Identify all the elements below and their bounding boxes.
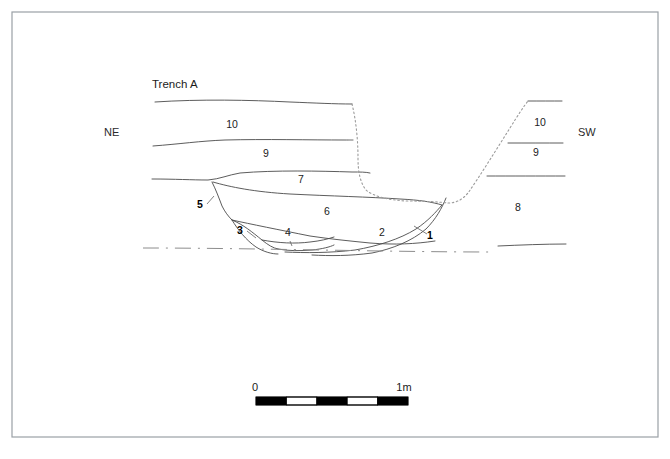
layer-9-7-boundary bbox=[152, 171, 370, 180]
context-label-3: 3 bbox=[237, 224, 243, 236]
compass-label-sw: SW bbox=[578, 126, 596, 138]
figure-frame-border bbox=[12, 12, 658, 437]
section-drawing-canvas: Trench A NE SW 10975634211098 0 1m bbox=[0, 0, 670, 459]
scale-bar-segments bbox=[256, 397, 408, 405]
leader-4 bbox=[290, 241, 292, 246]
trench-title-label: Trench A bbox=[152, 78, 198, 90]
context-label-4: 4 bbox=[285, 226, 291, 238]
compass-label-ne: NE bbox=[104, 126, 119, 138]
cut-edge-dotted-lines bbox=[352, 101, 528, 203]
context-label-6: 6 bbox=[324, 205, 330, 217]
ground-surface-left bbox=[155, 100, 352, 104]
context-label-5: 5 bbox=[197, 198, 203, 210]
scale-bar-end-label: 1m bbox=[396, 381, 411, 393]
natural-base-dashdot-line bbox=[143, 248, 492, 252]
scale-bar-segment-3 bbox=[317, 397, 347, 405]
context-label-7: 7 bbox=[298, 173, 304, 185]
cut-left-vertical bbox=[352, 104, 448, 203]
scale-bar-segment-4 bbox=[347, 397, 377, 405]
scale-bar-segment-2 bbox=[286, 397, 316, 405]
context-label-9: 9 bbox=[263, 147, 269, 159]
cut-5-edge bbox=[212, 182, 232, 220]
scale-bar-start-label: 0 bbox=[252, 381, 258, 393]
context-label-2: 2 bbox=[379, 226, 385, 238]
scale-bar-segment-5 bbox=[378, 397, 408, 405]
context-label-10: 10 bbox=[534, 116, 546, 128]
context-label-1: 1 bbox=[427, 229, 433, 241]
context-number-labels: 10975634211098 bbox=[197, 116, 546, 241]
context-label-8: 8 bbox=[515, 201, 521, 213]
right-bank-layer-lines bbox=[487, 101, 566, 246]
label-leader-lines bbox=[207, 196, 427, 246]
section-drawing-figure: Trench A NE SW 10975634211098 0 1m bbox=[0, 0, 670, 459]
leader-5 bbox=[207, 196, 214, 204]
rb-lower bbox=[498, 244, 566, 246]
scale-bar-segment-1 bbox=[256, 397, 286, 405]
context-label-9: 9 bbox=[533, 146, 539, 158]
scale-bar: 0 1m bbox=[252, 381, 412, 405]
layer-10-9-boundary bbox=[153, 140, 353, 146]
context-label-10: 10 bbox=[226, 118, 238, 130]
natural-base bbox=[143, 248, 492, 252]
cut-right-slope bbox=[448, 101, 528, 203]
